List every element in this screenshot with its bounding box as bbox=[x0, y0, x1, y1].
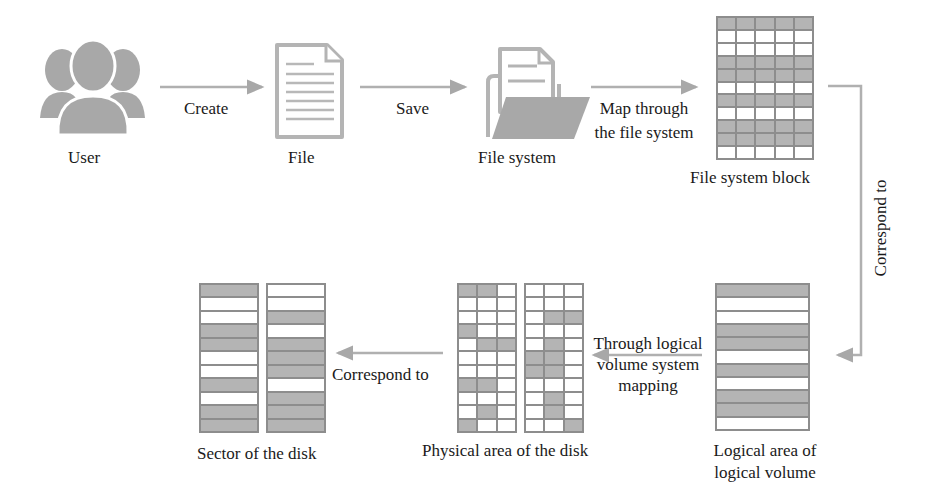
empty-block-cell bbox=[718, 44, 735, 55]
filled-block-cell bbox=[718, 18, 735, 29]
filled-block-cell bbox=[545, 352, 562, 363]
empty-block-cell bbox=[795, 44, 812, 55]
filled-block-cell bbox=[717, 285, 808, 296]
empty-block-cell bbox=[737, 31, 754, 42]
filled-block-cell bbox=[268, 339, 324, 350]
empty-block-cell bbox=[478, 312, 495, 323]
filled-block-cell bbox=[545, 339, 562, 350]
file-system-label: File system bbox=[478, 147, 556, 168]
filled-block-cell bbox=[459, 325, 476, 336]
filled-block-cell bbox=[717, 404, 808, 415]
filled-block-cell bbox=[795, 18, 812, 29]
empty-block-cell bbox=[459, 339, 476, 350]
empty-block-cell bbox=[459, 298, 476, 309]
filled-block-cell bbox=[545, 366, 562, 377]
empty-block-cell bbox=[526, 298, 543, 309]
empty-block-cell bbox=[498, 366, 515, 377]
empty-block-cell bbox=[459, 406, 476, 417]
disk-sector-label: Sector of the disk bbox=[197, 443, 316, 464]
empty-block-cell bbox=[498, 352, 515, 363]
empty-block-cell bbox=[201, 393, 257, 404]
disk-sector-grid-right bbox=[266, 283, 326, 433]
filled-block-cell bbox=[776, 121, 793, 132]
edge-map-fs-label: Map through the file system bbox=[580, 97, 708, 145]
empty-block-cell bbox=[498, 420, 515, 431]
empty-block-cell bbox=[756, 44, 773, 55]
empty-block-cell bbox=[795, 108, 812, 119]
filled-block-cell bbox=[718, 121, 735, 132]
empty-block-cell bbox=[545, 379, 562, 390]
empty-block-cell bbox=[795, 31, 812, 42]
disk-sector-grid-left bbox=[199, 283, 259, 433]
filled-block-cell bbox=[717, 338, 808, 349]
filled-block-cell bbox=[201, 325, 257, 336]
filled-block-cell bbox=[565, 420, 582, 431]
empty-block-cell bbox=[526, 312, 543, 323]
filled-block-cell bbox=[565, 312, 582, 323]
empty-block-cell bbox=[545, 325, 562, 336]
empty-block-cell bbox=[498, 298, 515, 309]
empty-block-cell bbox=[565, 298, 582, 309]
filled-block-cell bbox=[718, 134, 735, 145]
filled-block-cell bbox=[545, 393, 562, 404]
filled-block-cell bbox=[756, 57, 773, 68]
empty-block-cell bbox=[201, 352, 257, 363]
empty-block-cell bbox=[526, 325, 543, 336]
empty-block-cell bbox=[459, 352, 476, 363]
filled-block-cell bbox=[795, 57, 812, 68]
empty-block-cell bbox=[565, 339, 582, 350]
filled-block-cell bbox=[201, 406, 257, 417]
empty-block-cell bbox=[526, 406, 543, 417]
filled-block-cell bbox=[717, 391, 808, 402]
empty-block-cell bbox=[268, 298, 324, 309]
filled-block-cell bbox=[478, 406, 495, 417]
empty-block-cell bbox=[717, 418, 808, 429]
empty-block-cell bbox=[459, 393, 476, 404]
empty-block-cell bbox=[526, 285, 543, 296]
empty-block-cell bbox=[459, 366, 476, 377]
physical-area-label: Physical area of the disk bbox=[422, 440, 588, 461]
filled-block-cell bbox=[737, 95, 754, 106]
empty-block-cell bbox=[756, 108, 773, 119]
filled-block-cell bbox=[756, 134, 773, 145]
empty-block-cell bbox=[478, 366, 495, 377]
physical-area-grid-right bbox=[524, 283, 584, 433]
empty-block-cell bbox=[268, 285, 324, 296]
filled-block-cell bbox=[717, 365, 808, 376]
edge-lv-mapping-label: Through logical volume system mapping bbox=[582, 333, 714, 396]
edge-correspond-bottom-label: Correspond to bbox=[332, 364, 429, 385]
file-label: File bbox=[288, 147, 314, 168]
empty-block-cell bbox=[478, 393, 495, 404]
empty-block-cell bbox=[201, 298, 257, 309]
filled-block-cell bbox=[795, 121, 812, 132]
empty-block-cell bbox=[776, 83, 793, 94]
arrow-correspond-right bbox=[828, 86, 861, 355]
document-icon bbox=[277, 45, 342, 137]
fs-block-label: File system block bbox=[690, 167, 810, 188]
filled-block-cell bbox=[526, 352, 543, 363]
filled-block-cell bbox=[459, 379, 476, 390]
filled-block-cell bbox=[478, 285, 495, 296]
empty-block-cell bbox=[717, 378, 808, 389]
fs-block-grid bbox=[716, 16, 814, 160]
filled-block-cell bbox=[737, 70, 754, 81]
filled-block-cell bbox=[795, 134, 812, 145]
filled-block-cell bbox=[478, 379, 495, 390]
edge-correspond-right-label: Correspond to bbox=[871, 173, 891, 283]
filled-block-cell bbox=[756, 95, 773, 106]
empty-block-cell bbox=[565, 325, 582, 336]
empty-block-cell bbox=[737, 108, 754, 119]
empty-block-cell bbox=[201, 366, 257, 377]
filled-block-cell bbox=[718, 57, 735, 68]
filled-block-cell bbox=[478, 339, 495, 350]
empty-block-cell bbox=[565, 352, 582, 363]
empty-block-cell bbox=[718, 147, 735, 158]
filled-block-cell bbox=[776, 95, 793, 106]
filled-block-cell bbox=[756, 70, 773, 81]
filled-block-cell bbox=[718, 70, 735, 81]
empty-block-cell bbox=[717, 351, 808, 362]
logical-volume-label: Logical area of logical volume bbox=[700, 440, 830, 484]
filled-block-cell bbox=[756, 121, 773, 132]
filled-block-cell bbox=[545, 406, 562, 417]
empty-block-cell bbox=[776, 147, 793, 158]
